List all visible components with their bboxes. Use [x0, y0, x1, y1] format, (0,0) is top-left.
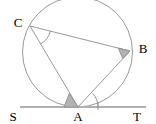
angle-wedge-at-a-left: [64, 94, 78, 108]
point-label-b: B: [139, 42, 148, 55]
geometry-canvas: [0, 0, 156, 124]
point-label-t: T: [133, 110, 141, 123]
chord-c-b: [30, 26, 130, 51]
angle-arc-at-c: [41, 31, 51, 44]
geometry-figure: C B A S T: [0, 0, 156, 124]
point-label-s: S: [9, 110, 16, 123]
angle-wedge-at-b: [118, 48, 130, 58]
chord-b-a: [78, 51, 130, 107]
chord-c-a: [30, 26, 78, 107]
circumscribed-circle: [23, 0, 133, 107]
point-label-a: A: [73, 110, 82, 123]
point-label-c: C: [14, 16, 23, 29]
